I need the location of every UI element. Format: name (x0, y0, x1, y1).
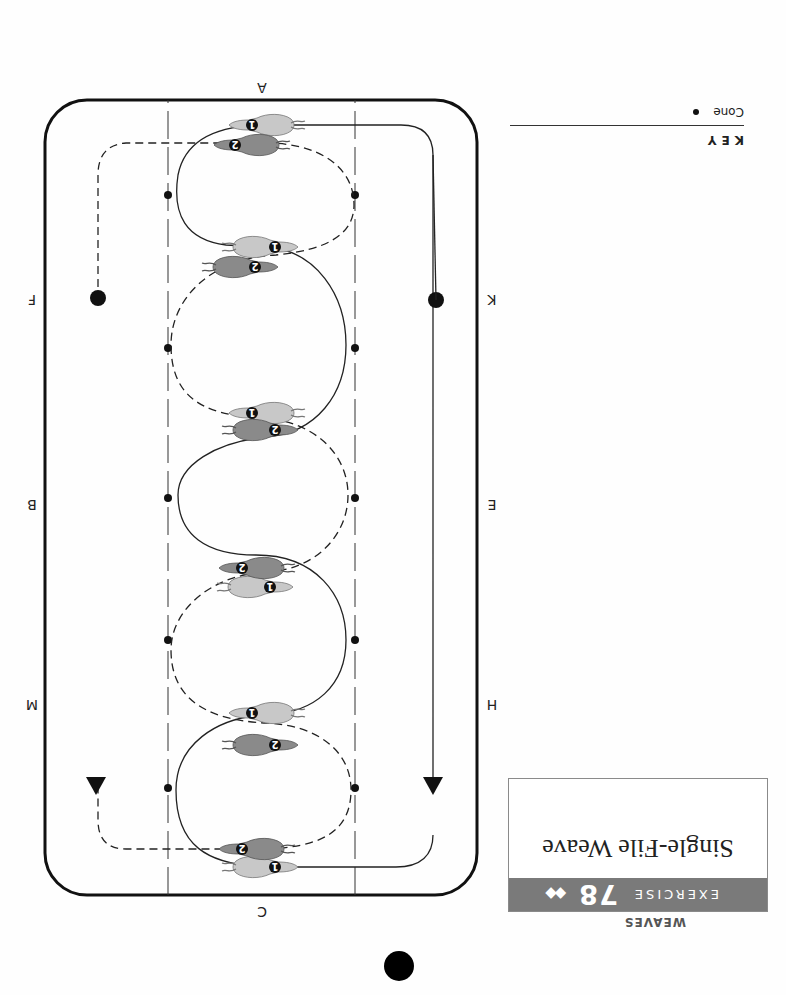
svg-text:1: 1 (271, 861, 278, 872)
exercise-page: EXERCISE 78 ◆◆ Single-File Weave WEAVES … (0, 0, 786, 995)
svg-text:2: 2 (271, 424, 278, 435)
svg-text:2: 2 (238, 843, 245, 854)
horse-rider-1 (229, 114, 305, 135)
rider-2-path (98, 143, 354, 849)
svg-text:1: 1 (248, 707, 255, 718)
horse-rider-1 (222, 236, 298, 257)
horse-rider-2 (219, 557, 295, 578)
horse-rider-2 (219, 838, 295, 859)
horse-rider-2 (214, 134, 290, 155)
horse-rider-2 (222, 419, 298, 440)
svg-text:2: 2 (251, 261, 258, 272)
rider-1-path (176, 125, 433, 867)
svg-text:1: 1 (248, 407, 255, 418)
svg-text:2: 2 (238, 562, 245, 573)
svg-text:2: 2 (271, 739, 278, 750)
svg-text:2: 2 (231, 139, 238, 150)
rider-2-arrow-icon (86, 777, 106, 795)
horse-rider-2 (222, 734, 298, 755)
horse-rider-1 (229, 402, 305, 423)
horse-rider-2 (202, 256, 278, 277)
rider-2-start-dot (90, 290, 106, 306)
svg-text:1: 1 (271, 241, 278, 252)
arena-diagram: 1 2 1 2 1 2 1 2 1 2 1 2 (0, 0, 786, 995)
rider-1-arrow-icon (423, 777, 443, 795)
svg-text:1: 1 (266, 581, 273, 592)
svg-text:1: 1 (248, 119, 255, 130)
arena-boundary (45, 100, 477, 895)
